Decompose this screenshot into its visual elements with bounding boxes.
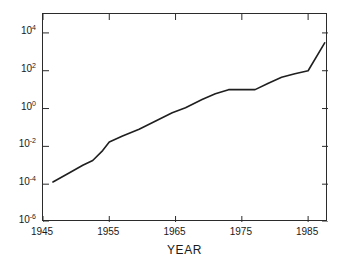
x-axis-labels: 19451955196519751985 [0,0,345,269]
x-tick-label-4: 1985 [285,226,329,237]
x-tick-label-1: 1955 [86,226,130,237]
x-tick-label-3: 1975 [219,226,263,237]
x-axis-title: YEAR [42,244,327,257]
figure: 10410210010-210-410-6 194519551965197519… [0,0,345,269]
x-tick-label-0: 1945 [20,226,64,237]
x-tick-label-2: 1965 [153,226,197,237]
